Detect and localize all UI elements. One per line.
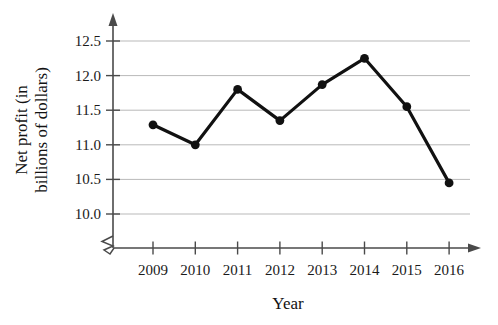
x-tick-label-2014: 2014 <box>350 262 381 278</box>
x-tick-label-2016: 2016 <box>434 262 465 278</box>
gridlines <box>113 41 470 214</box>
y-axis-tick-labels: 12.5 12.0 11.5 11.0 10.5 10.0 <box>75 33 101 222</box>
x-tick-label-2015: 2015 <box>392 262 422 278</box>
y-axis-title: Net profit (in billions of dollars) <box>12 67 51 193</box>
data-point-2015 <box>402 102 411 111</box>
data-point-2012 <box>276 116 285 125</box>
data-point-2016 <box>445 179 454 188</box>
y-axis-arrow-icon <box>109 13 118 26</box>
x-tick-label-2009: 2009 <box>138 262 168 278</box>
line-chart: 12.5 12.0 11.5 11.0 10.5 10.0 2009 2010 … <box>0 0 498 325</box>
data-point-2009 <box>149 120 158 129</box>
chart-canvas: 12.5 12.0 11.5 11.0 10.5 10.0 2009 2010 … <box>0 0 498 325</box>
x-axis-arrow-icon <box>468 244 481 253</box>
data-line-net-profit <box>153 58 449 183</box>
x-tick-label-2013: 2013 <box>307 262 337 278</box>
y-tick-label-11-0: 11.0 <box>75 137 101 153</box>
y-axis-title-line-2: billions of dollars) <box>32 67 51 193</box>
axis-break-icon <box>102 236 122 254</box>
data-series-net-profit <box>149 54 454 187</box>
x-axis <box>102 236 481 255</box>
x-tick-label-2012: 2012 <box>265 262 295 278</box>
y-tick-label-10-5: 10.5 <box>75 171 101 187</box>
data-point-2010 <box>191 140 200 149</box>
y-axis <box>106 13 120 248</box>
x-axis-title: Year <box>272 294 304 313</box>
y-tick-label-12-5: 12.5 <box>75 33 101 49</box>
y-tick-label-12-0: 12.0 <box>75 68 101 84</box>
data-point-2013 <box>318 80 327 89</box>
y-axis-title-line-1: Net profit (in <box>12 85 31 175</box>
y-tick-label-10-0: 10.0 <box>75 206 101 222</box>
data-point-2011 <box>233 85 242 94</box>
data-point-2014 <box>360 54 369 63</box>
x-axis-tick-labels: 2009 2010 2011 2012 2013 2014 2015 2016 <box>138 262 465 278</box>
x-tick-label-2011: 2011 <box>223 262 252 278</box>
y-tick-label-11-5: 11.5 <box>75 102 101 118</box>
x-tick-label-2010: 2010 <box>180 262 210 278</box>
